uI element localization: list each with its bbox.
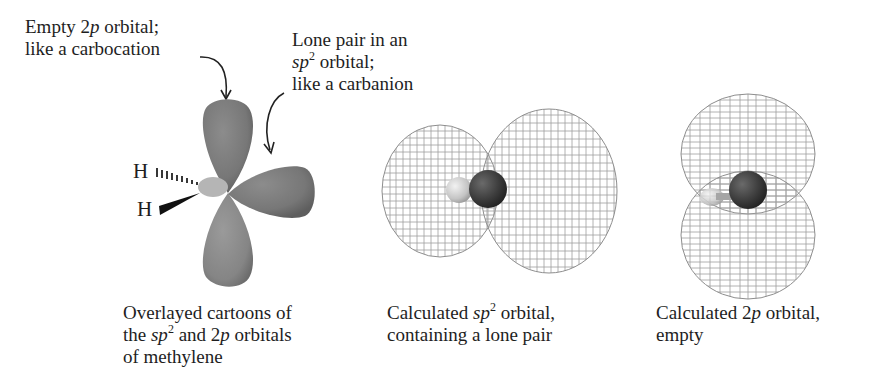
hydrogen-label-top: H [133,160,148,182]
wedge-bond [159,193,200,215]
calculated-2p-orbital [680,90,820,305]
arrow-to-sp2-lobe [264,93,284,153]
hydrogen-atom [446,177,472,203]
hashed-bond [157,168,197,185]
sp2-lobe [228,166,315,218]
carbon-atom [729,171,767,209]
cartoon-orbitals [157,99,315,286]
small-back-lobe [198,177,228,197]
caption-calculated-sp2: Calculated sp2 orbital, containing a lon… [387,302,555,346]
arrow-to-2p-lobe [200,57,231,99]
hydrogen-label-bottom: H [137,198,152,220]
caption-calculated-2p: Calculated 2p orbital, empty [656,302,820,346]
callout-lone-pair: Lone pair in an sp2 orbital; like a carb… [292,29,413,95]
callout-empty-2p: Empty 2p orbital; like a carbocation [25,16,160,60]
bottom-2p-lobe [203,193,253,287]
calculated-sp2-orbital [380,105,620,280]
caption-cartoon: Overlayed cartoons of the sp2 and 2p orb… [123,302,292,368]
carbon-atom [469,170,507,208]
